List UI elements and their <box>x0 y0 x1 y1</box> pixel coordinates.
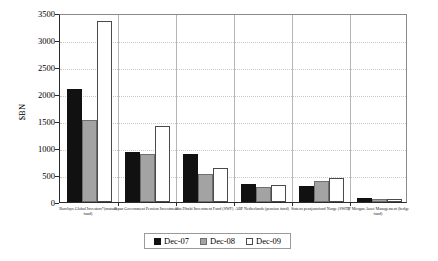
bar-group <box>176 15 234 202</box>
legend: Dec-07 Dec-08 Dec-09 <box>144 233 291 249</box>
bar[interactable] <box>241 184 256 202</box>
bar-group <box>292 15 350 202</box>
legend-label-dec-09: Dec-09 <box>256 236 281 246</box>
category-divider <box>292 15 293 202</box>
bar[interactable] <box>198 174 213 202</box>
y-tick-label: 1500 <box>13 117 55 127</box>
y-tick-label: 0 <box>13 198 55 208</box>
bar-group <box>60 15 118 202</box>
y-tick-label: 1000 <box>13 144 55 154</box>
bar-group <box>234 15 292 202</box>
bar[interactable] <box>140 154 155 202</box>
category-divider <box>234 15 235 202</box>
bar[interactable] <box>183 154 198 202</box>
category-divider <box>176 15 177 202</box>
x-axis-label: Abu Dhabi Investment Fund (SWF) <box>171 206 237 211</box>
y-tick-label: 3000 <box>13 36 55 46</box>
bar[interactable] <box>213 168 228 202</box>
y-tick-mark <box>55 68 59 69</box>
bar[interactable] <box>387 199 402 203</box>
legend-label-dec-08: Dec-08 <box>210 236 235 246</box>
bar[interactable] <box>271 185 286 202</box>
y-tick-mark <box>55 176 59 177</box>
bar-group <box>350 15 408 202</box>
bar[interactable] <box>357 198 372 202</box>
y-tick-mark <box>55 41 59 42</box>
y-tick-label: 2500 <box>13 63 55 73</box>
x-axis-label: JP Morgan Asset Management (hedge fund) <box>345 206 411 216</box>
x-axis-label: Barclays Global Investors*(mutual fund) <box>55 206 121 216</box>
y-tick-mark <box>55 122 59 123</box>
bar[interactable] <box>67 89 82 202</box>
bar[interactable] <box>97 21 112 202</box>
bar[interactable] <box>155 126 170 202</box>
y-tick-label: 3500 <box>13 9 55 19</box>
legend-swatch-dec-07 <box>154 238 161 245</box>
bar[interactable] <box>314 181 329 202</box>
bar[interactable] <box>372 199 387 202</box>
x-axis-label: Japan Government Pension Investment <box>113 206 179 211</box>
y-tick-mark <box>55 149 59 150</box>
bar[interactable] <box>329 178 344 202</box>
plot-area <box>59 14 407 203</box>
legend-swatch-dec-08 <box>200 238 207 245</box>
y-tick-mark <box>55 14 59 15</box>
legend-item-dec-09[interactable]: Dec-09 <box>246 236 281 246</box>
y-tick-mark <box>55 95 59 96</box>
legend-swatch-dec-09 <box>246 238 253 245</box>
y-tick-label: 500 <box>13 171 55 181</box>
bar-chart: $BN 0500100015002000250030003500 Barclay… <box>0 0 438 261</box>
legend-item-dec-08[interactable]: Dec-08 <box>200 236 235 246</box>
legend-item-dec-07[interactable]: Dec-07 <box>154 236 189 246</box>
x-axis-label: Statens pensjonsfond Norge (SWF) <box>287 206 353 211</box>
legend-label-dec-07: Dec-07 <box>164 236 189 246</box>
y-tick-mark <box>55 203 59 204</box>
bar-group <box>118 15 176 202</box>
bar[interactable] <box>256 187 271 202</box>
bar[interactable] <box>299 186 314 202</box>
bar[interactable] <box>82 120 97 202</box>
category-divider <box>350 15 351 202</box>
y-tick-label: 2000 <box>13 90 55 100</box>
x-axis-label: ABP Netherlands (pension fund) <box>229 206 295 211</box>
bar[interactable] <box>125 152 140 202</box>
category-divider <box>118 15 119 202</box>
